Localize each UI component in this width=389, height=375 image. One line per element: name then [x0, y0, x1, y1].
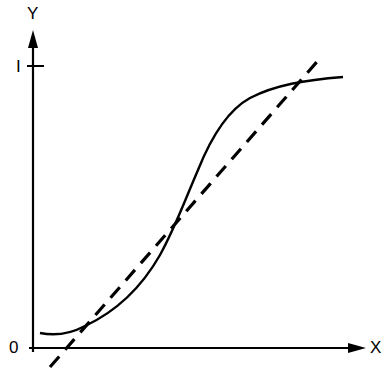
linear-dashed-line: [50, 56, 322, 367]
x-axis-arrow-icon: [348, 343, 366, 353]
plot-canvas: [0, 0, 389, 375]
origin-label: 0: [9, 339, 18, 356]
diagram: Y X 0 I: [0, 0, 389, 375]
x-axis-label: X: [370, 339, 381, 356]
y-axis-arrow-icon: [28, 30, 38, 48]
y-axis-label: Y: [27, 5, 38, 22]
tick-one-label: I: [16, 58, 21, 75]
